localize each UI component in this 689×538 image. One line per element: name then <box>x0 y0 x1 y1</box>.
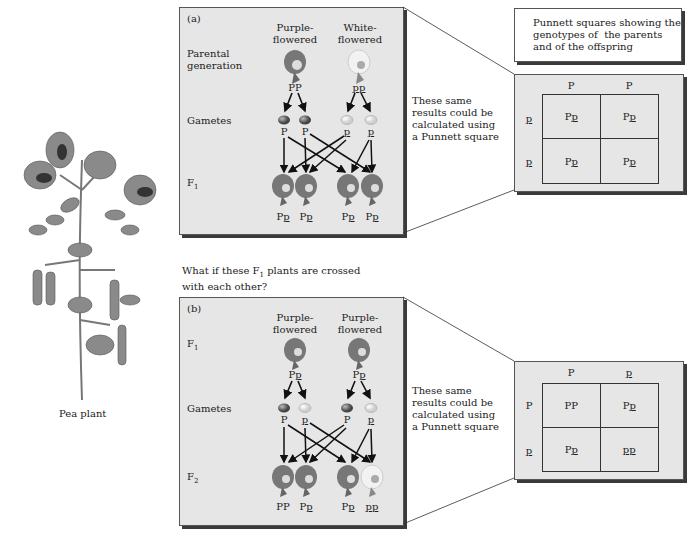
punnett-b-grid: PP Pp Pp pp <box>542 383 659 472</box>
gamete-b-2: p <box>302 414 308 425</box>
f2-genotype-2: Pp <box>299 501 312 512</box>
gamete-b-1: P <box>281 414 288 425</box>
punnett-b-cell: PP <box>543 384 601 428</box>
punnett-b-left-1: P <box>526 400 533 411</box>
f2-genotype-3: Pp <box>341 501 354 512</box>
punnett-b-top-2: p <box>626 367 632 378</box>
punnett-b-cell: Pp <box>601 384 659 428</box>
punnett-b-top-1: P <box>568 367 575 378</box>
gamete-b-4: p <box>368 414 374 425</box>
gamete-b-3: P <box>344 414 351 425</box>
side-text-b: These same results could be calculated u… <box>412 385 499 433</box>
punnett-b-cell: pp <box>601 428 659 472</box>
punnett-b-cell: Pp <box>543 428 601 472</box>
punnett-b-left-2: p <box>526 445 532 456</box>
parent2-genotype-b: Pp <box>352 369 365 380</box>
parent1-genotype-b: Pp <box>288 369 301 380</box>
f2-genotype-4: pp <box>366 501 379 512</box>
f2-genotype-1: PP <box>276 501 289 512</box>
